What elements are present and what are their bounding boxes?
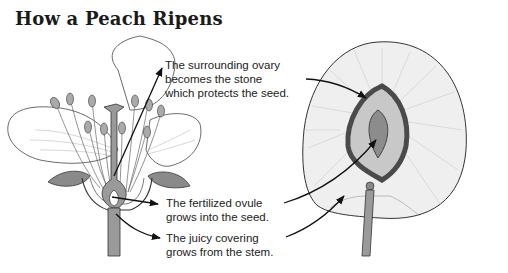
- label-ovule-line-1: The fertilized ovule: [166, 196, 269, 210]
- label-ovary-line-3: which protects the seed.: [165, 86, 289, 100]
- label-ovary-line-1: The surrounding ovary: [165, 58, 289, 72]
- label-ovule-line-2: grows into the seed.: [166, 210, 269, 224]
- label-ovary-line-2: becomes the stone: [165, 72, 289, 86]
- label-ovule: The fertilized ovule grows into the seed…: [166, 196, 269, 224]
- label-covering-line-1: The juicy covering: [166, 231, 273, 245]
- peach-fruit: [303, 42, 467, 256]
- label-covering: The juicy covering grows from the stem.: [166, 231, 273, 259]
- label-ovary: The surrounding ovary becomes the stone …: [165, 58, 289, 100]
- label-covering-line-2: grows from the stem.: [166, 245, 273, 259]
